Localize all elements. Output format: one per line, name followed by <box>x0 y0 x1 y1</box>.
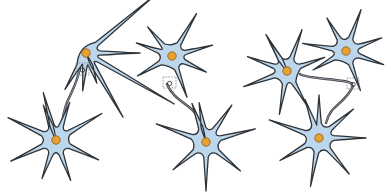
neuron-bottom <box>269 95 366 186</box>
neuron-soma <box>65 0 174 117</box>
synapse-box <box>163 77 176 88</box>
neuron-top <box>65 0 174 117</box>
nucleus-icon <box>52 136 60 144</box>
neuron-bottom <box>156 103 255 191</box>
nucleus-icon <box>168 52 176 60</box>
neuron-soma <box>156 103 255 191</box>
axon-line <box>326 86 353 123</box>
nucleus-icon <box>202 138 210 146</box>
neuron-diagram <box>0 0 391 195</box>
neuron-bottom <box>8 93 102 181</box>
neuron-top <box>136 14 212 98</box>
nucleus-icon <box>82 49 90 57</box>
neuron-left <box>244 30 325 115</box>
nucleus-icon <box>315 134 323 142</box>
nucleus-icon <box>342 47 350 55</box>
nucleus-icon <box>283 67 291 75</box>
neuron-figure <box>0 0 391 195</box>
